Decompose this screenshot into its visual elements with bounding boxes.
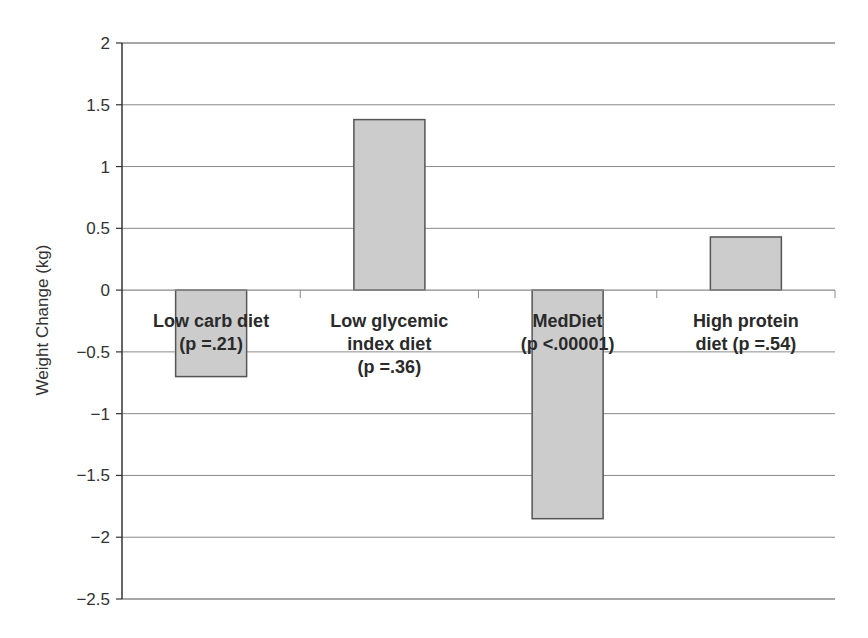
y-tick-label: −1	[91, 405, 110, 424]
y-tick-label: 0	[101, 281, 110, 300]
y-tick-label: 2	[101, 34, 110, 53]
category-label: High proteindiet (p =.54)	[693, 311, 799, 354]
y-tick-label: −0.5	[76, 343, 110, 362]
y-axis-title: Weight Change (kg)	[33, 245, 52, 396]
category-label: Low glycemicindex diet(p =.36)	[330, 311, 448, 377]
y-tick-label: 0.5	[86, 219, 110, 238]
category-labels: Low carb diet(p =.21)Low glycemicindex d…	[153, 311, 799, 377]
y-tick-label: −2	[91, 528, 110, 547]
y-tick-label: 1	[101, 158, 110, 177]
bar	[354, 120, 425, 291]
y-tick-label: −2.5	[76, 590, 110, 609]
bar	[710, 237, 781, 290]
y-tick-label: 1.5	[86, 96, 110, 115]
y-tick-label: −1.5	[76, 466, 110, 485]
y-tick-labels: 21.510.50−0.5−1−1.5−2−2.5	[76, 34, 110, 609]
y-axis	[116, 43, 122, 599]
bar-chart: 21.510.50−0.5−1−1.5−2−2.5 Low carb diet(…	[0, 0, 868, 638]
